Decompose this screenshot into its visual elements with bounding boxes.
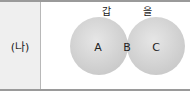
set-label-eul: 을 [143, 6, 152, 17]
set-label-gap: 갑 [102, 6, 111, 17]
region-label-b: B [123, 41, 131, 54]
row-label: (나) [11, 38, 30, 54]
venn-diagram-cell: 갑 을 A B C [41, 2, 190, 89]
region-label-a: A [94, 41, 102, 54]
region-label-c: C [152, 41, 160, 54]
row-label-cell: (나) [0, 2, 41, 89]
table-row: (나) 갑 을 A B C [0, 0, 190, 91]
venn-diagram: 갑 을 A B C [41, 2, 190, 89]
